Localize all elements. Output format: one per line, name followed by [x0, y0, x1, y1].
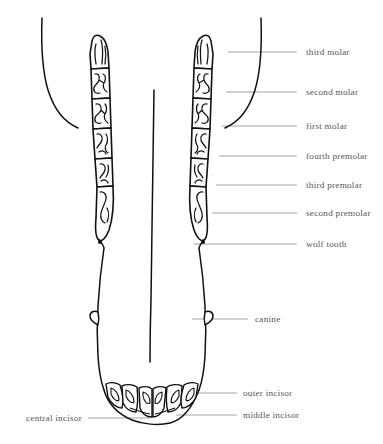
right-first-molar	[192, 98, 211, 129]
label-second-molar: second molar	[306, 88, 358, 97]
mandible-dental-diagram: third molar second molar first molar fou…	[0, 0, 383, 444]
label-first-molar: first molar	[306, 122, 347, 131]
left-middle-incisor	[122, 385, 138, 412]
diagram-canvas	[0, 0, 383, 444]
label-central-incisor: central incisor	[26, 414, 82, 423]
left-wolf-tooth-dot	[98, 240, 102, 244]
label-wolf-tooth: wolf tooth	[306, 240, 347, 249]
right-canine	[204, 311, 213, 325]
label-third-premolar: third premolar	[306, 181, 362, 190]
left-canine	[90, 311, 99, 325]
left-outer-incisor	[106, 383, 123, 408]
label-third-molar: third molar	[306, 48, 350, 57]
canine-teeth	[90, 311, 213, 325]
label-middle-incisor: middle incisor	[243, 411, 299, 420]
right-wolf-tooth-dot	[201, 240, 205, 244]
label-outer-incisor: outer incisor	[243, 389, 292, 398]
left-ramus-outline	[42, 18, 78, 128]
right-second-molar	[193, 68, 212, 99]
left-first-molar	[92, 98, 111, 129]
label-fourth-premolar: fourth premolar	[306, 152, 368, 161]
right-fourth-premolar	[191, 128, 210, 159]
right-outer-incisor	[181, 383, 198, 408]
left-second-molar	[91, 68, 110, 99]
mandibular-symphysis-midline	[150, 90, 154, 362]
jaw-outline	[42, 18, 262, 424]
left-fourth-premolar	[93, 128, 112, 159]
label-canine: canine	[255, 315, 280, 324]
right-ramus-outline	[225, 18, 261, 128]
incisor-arcade	[106, 383, 198, 417]
label-second-premolar: second premolar	[306, 209, 371, 218]
